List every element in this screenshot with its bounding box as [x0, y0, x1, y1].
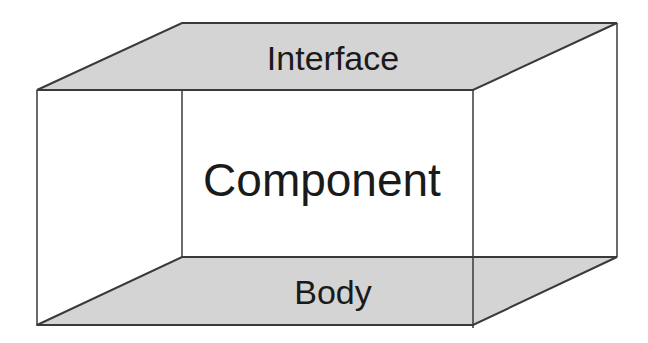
- component-box-diagram: Interface Component Body: [0, 0, 648, 343]
- interface-label: Interface: [267, 39, 399, 77]
- body-label: Body: [294, 273, 372, 311]
- component-label: Component: [203, 154, 441, 206]
